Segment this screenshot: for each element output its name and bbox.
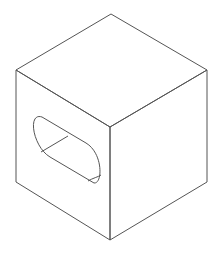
cube-right-face [110, 70, 207, 240]
isometric-cube-drawing [0, 0, 220, 254]
slot-outline [33, 117, 100, 184]
cube-left-face [16, 70, 110, 240]
slot-inner-edge [41, 136, 68, 152]
cube-top-face [16, 14, 207, 127]
